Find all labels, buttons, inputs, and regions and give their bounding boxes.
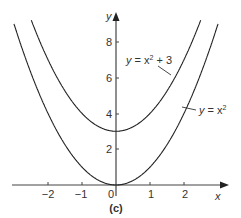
leader-line	[182, 107, 196, 110]
y-axis-label: y	[105, 10, 113, 22]
x-tick-label: 1	[148, 188, 154, 200]
annotation-y-x2: y = x2	[198, 104, 227, 116]
x-axis-label: x	[214, 190, 221, 202]
y-tick-label: 6	[106, 72, 112, 84]
y-tick-label: 4	[106, 108, 112, 120]
x-tick-label: 0	[108, 188, 114, 200]
panel-label: (c)	[109, 202, 123, 214]
y-tick-label: 8	[106, 36, 112, 48]
x-axis-arrow-icon	[220, 182, 229, 189]
annotation-y-x2-plus-3: y = x2 + 3	[125, 54, 172, 66]
x-tick-label: −1	[75, 188, 88, 200]
leader-line	[158, 66, 171, 75]
x-tick-label: −2	[42, 188, 55, 200]
y-axis-arrow-icon	[113, 12, 120, 21]
chart: −2 −1 0 1 2 8 6 4 2 y x y = x2 + 3 y = x…	[0, 0, 241, 218]
y-tick-label: 2	[106, 143, 112, 155]
x-tick-label: 2	[182, 188, 188, 200]
